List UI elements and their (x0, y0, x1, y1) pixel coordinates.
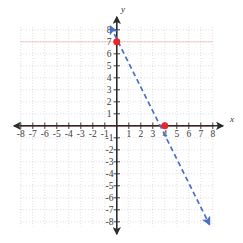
x-tick-label: -8 (17, 129, 25, 139)
y-tick-labels-negative: -1 -2 -3 -4 -5 -6 -7 -8 (106, 133, 114, 227)
x-tick-label: -3 (77, 129, 85, 139)
y-axis-label: y (120, 4, 125, 14)
x-tick-labels-negative: -8 -7 -6 -5 -4 -3 -2 -1 (17, 129, 109, 139)
x-tick-label: -7 (29, 129, 37, 139)
point-x-intercept (161, 122, 168, 129)
graph-canvas: -8 -7 -6 -5 -4 -3 -2 -1 1 2 3 4 5 6 7 8 … (0, 0, 243, 243)
y-tick-label: -1 (106, 133, 114, 143)
y-tick-label: 1 (107, 109, 112, 119)
y-tick-label: 5 (107, 61, 112, 71)
y-tick-label: -4 (106, 169, 114, 179)
y-tick-label: 2 (107, 97, 112, 107)
x-tick-label: 6 (186, 129, 191, 139)
x-tick-label: -6 (41, 129, 49, 139)
axes (14, 17, 223, 234)
x-tick-label: 5 (174, 129, 179, 139)
x-tick-label: 1 (126, 129, 131, 139)
x-tick-label: -5 (53, 129, 61, 139)
x-tick-label: -4 (65, 129, 73, 139)
y-tick-labels-positive: 8 7 6 5 4 3 2 1 (107, 25, 112, 119)
y-tick-label: 6 (107, 49, 112, 59)
point-y-intercept (113, 38, 120, 45)
x-tick-label: 2 (138, 129, 143, 139)
x-tick-label: 8 (210, 129, 215, 139)
x-tick-label: -2 (89, 129, 97, 139)
y-tick-label: -3 (106, 157, 114, 167)
y-tick-label: 3 (107, 85, 112, 95)
y-tick-label: -8 (106, 217, 114, 227)
y-tick-label: -6 (106, 193, 114, 203)
x-tick-label: 3 (150, 129, 155, 139)
y-tick-label: -2 (106, 145, 114, 155)
y-tick-label: -7 (106, 205, 114, 215)
coordinate-graph: -8 -7 -6 -5 -4 -3 -2 -1 1 2 3 4 5 6 7 8 … (0, 0, 243, 243)
y-tick-label: 7 (107, 37, 112, 47)
y-tick-label: 4 (107, 73, 112, 83)
x-tick-label: 7 (198, 129, 203, 139)
y-tick-label: -5 (106, 181, 114, 191)
x-axis-label: x (229, 114, 234, 124)
x-tick-labels-positive: 1 2 3 4 5 6 7 8 (126, 129, 215, 139)
